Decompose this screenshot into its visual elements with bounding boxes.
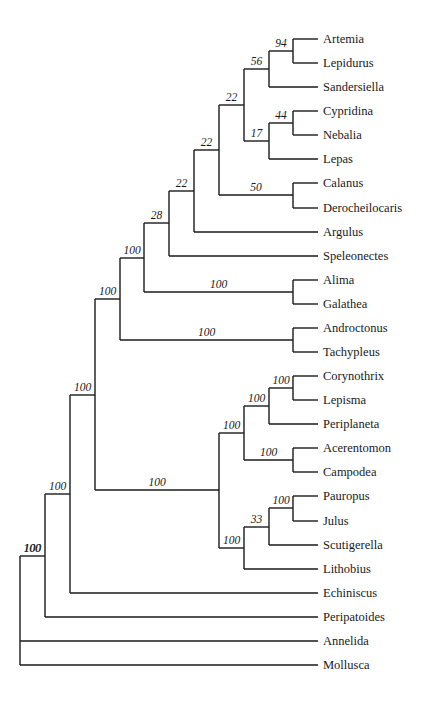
support-value: 100 <box>260 446 278 458</box>
taxon-label: Pauropus <box>323 489 370 503</box>
taxon-label: Lepas <box>323 152 353 166</box>
taxon-label: Sandersiella <box>323 80 385 94</box>
taxon-label: Annelida <box>323 634 369 648</box>
taxon-label: Androctonus <box>323 321 388 335</box>
support-value: 100 <box>223 534 241 546</box>
taxon-label: Acerentomon <box>323 441 392 455</box>
support-value: 28 <box>151 209 163 221</box>
taxon-label: Julus <box>323 514 349 528</box>
taxon-label: Echiniscus <box>323 586 377 600</box>
support-values: 9456441722502222281001001001001001001001… <box>23 37 290 554</box>
support-value-root: 100 <box>23 542 41 554</box>
support-value: 100 <box>272 494 290 506</box>
support-value: 100 <box>198 326 216 338</box>
support-value: 100 <box>123 244 141 256</box>
taxon-label: Alima <box>323 273 355 287</box>
support-value: 100 <box>99 285 117 297</box>
support-value: 22 <box>226 91 238 103</box>
support-value: 17 <box>251 127 264 139</box>
taxon-label: Tachypleus <box>323 345 380 359</box>
support-value: 94 <box>275 37 287 49</box>
taxon-label: Cypridina <box>323 104 373 118</box>
support-value: 50 <box>250 181 262 193</box>
support-value: 100 <box>148 476 166 488</box>
branches <box>20 39 318 665</box>
taxon-label: Lithobius <box>323 562 371 576</box>
taxon-label: Speleonectes <box>323 249 388 263</box>
taxon-label: Campodea <box>323 465 377 479</box>
support-value: 100 <box>74 381 92 393</box>
support-value: 33 <box>250 513 263 525</box>
taxon-label: Mollusca <box>323 658 370 672</box>
taxon-label: Calanus <box>323 176 363 190</box>
support-value: 44 <box>275 109 287 121</box>
phylogenetic-tree: 9456441722502222281001001001001001001001… <box>0 0 421 702</box>
support-value: 22 <box>201 136 213 148</box>
support-value: 100 <box>49 480 67 492</box>
taxon-label: Artemia <box>323 32 364 46</box>
taxon-label: Derocheilocaris <box>323 201 402 215</box>
taxon-labels: ArtemiaLepidurusSandersiellaCypridinaNeb… <box>323 32 402 672</box>
support-value: 100 <box>272 374 290 386</box>
taxon-label: Peripatoides <box>323 610 385 624</box>
taxon-label: Scutigerella <box>323 538 383 552</box>
taxon-label: Periplaneta <box>323 417 380 431</box>
support-value: 100 <box>223 419 241 431</box>
taxon-label: Lepisma <box>323 393 366 407</box>
taxon-label: Argulus <box>323 225 363 239</box>
support-value: 100 <box>248 392 266 404</box>
support-value: 56 <box>251 55 263 67</box>
support-value: 22 <box>176 177 188 189</box>
taxon-label: Lepidurus <box>323 56 374 70</box>
support-value: 100 <box>210 278 228 290</box>
taxon-label: Corynothrix <box>323 369 385 383</box>
taxon-label: Galathea <box>323 297 368 311</box>
taxon-label: Nebalia <box>323 128 362 142</box>
